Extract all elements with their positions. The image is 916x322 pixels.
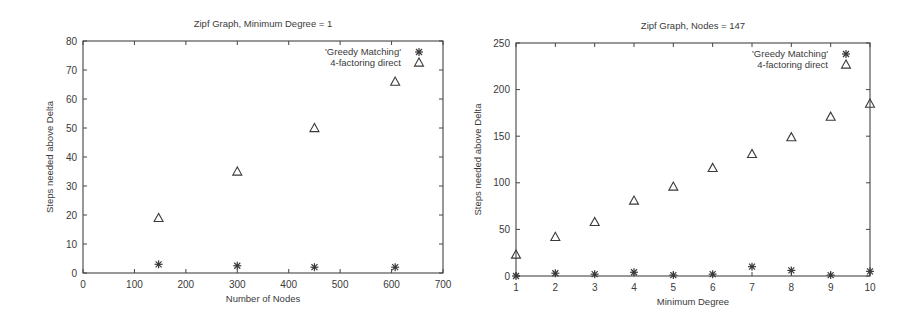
- series-asterisk: [155, 260, 400, 271]
- chart-title: Zipf Graph, Minimum Degree = 1: [194, 18, 333, 29]
- x-tick-label: 700: [435, 279, 452, 290]
- x-axis-label: Number of Nodes: [226, 293, 301, 304]
- triangle-marker: [748, 149, 757, 157]
- triangle-marker: [708, 163, 717, 171]
- series-asterisk: [512, 263, 874, 280]
- triangle-marker: [787, 133, 796, 141]
- x-tick-label: 8: [789, 282, 795, 293]
- y-tick-label: 0: [504, 271, 510, 282]
- x-axis-label: Minimum Degree: [657, 296, 729, 307]
- y-tick-label: 200: [493, 84, 510, 95]
- legend: 'Greedy Matching'4-factoring direct: [325, 46, 423, 68]
- triangle-marker: [842, 60, 851, 68]
- y-axis-label: Steps needed above Delta: [44, 100, 55, 213]
- y-tick-label: 50: [66, 123, 78, 134]
- asterisk-marker: [827, 271, 835, 279]
- asterisk-marker: [748, 263, 756, 271]
- series-triangle: [154, 77, 400, 221]
- asterisk-marker: [842, 50, 850, 58]
- x-tick-label: 2: [553, 282, 559, 293]
- x-tick-label: 500: [332, 279, 349, 290]
- chart-title: Zipf Graph, Nodes = 147: [641, 20, 745, 31]
- asterisk-marker: [155, 260, 163, 268]
- legend-label: 4-factoring direct: [330, 57, 401, 68]
- y-tick-label: 70: [66, 65, 78, 76]
- x-tick-label: 4: [631, 282, 637, 293]
- x-tick-label: 300: [229, 279, 246, 290]
- y-tick-label: 30: [66, 181, 78, 192]
- asterisk-marker: [630, 268, 638, 276]
- x-tick-label: 9: [828, 282, 834, 293]
- x-tick-label: 100: [126, 279, 143, 290]
- x-tick-label: 5: [671, 282, 677, 293]
- asterisk-marker: [415, 48, 423, 56]
- x-tick-label: 400: [280, 279, 297, 290]
- x-tick-label: 1: [513, 282, 519, 293]
- y-tick-label: 40: [66, 152, 78, 163]
- y-tick-label: 10: [66, 239, 78, 250]
- triangle-marker: [590, 217, 599, 225]
- figure: Zipf Graph, Minimum Degree = 10100200300…: [0, 0, 916, 322]
- asterisk-marker: [310, 263, 318, 271]
- asterisk-marker: [787, 266, 795, 274]
- x-tick-label: 600: [383, 279, 400, 290]
- y-tick-label: 80: [66, 36, 78, 47]
- asterisk-marker: [233, 262, 241, 270]
- legend-label: 'Greedy Matching': [752, 48, 828, 59]
- chart-2: Zipf Graph, Nodes = 14712345678910050100…: [472, 20, 876, 307]
- legend-label: 'Greedy Matching': [325, 46, 401, 57]
- triangle-marker: [630, 196, 639, 204]
- y-tick-label: 50: [499, 224, 511, 235]
- asterisk-marker: [391, 263, 399, 271]
- legend-label: 4-factoring direct: [757, 59, 828, 70]
- y-axis-label: Steps needed above Delta: [472, 103, 483, 216]
- y-tick-label: 250: [493, 38, 510, 49]
- asterisk-marker: [512, 272, 520, 280]
- y-tick-label: 150: [493, 131, 510, 142]
- asterisk-marker: [866, 267, 874, 275]
- series-triangle: [512, 99, 875, 258]
- x-tick-label: 6: [710, 282, 716, 293]
- triangle-marker: [551, 232, 560, 240]
- x-tick-label: 3: [592, 282, 598, 293]
- y-tick-label: 20: [66, 210, 78, 221]
- triangle-marker: [154, 213, 163, 221]
- plot-frame: [516, 43, 870, 276]
- plot-frame: [83, 41, 443, 273]
- triangle-marker: [233, 167, 242, 175]
- x-tick-label: 0: [80, 279, 86, 290]
- triangle-marker: [310, 124, 319, 132]
- x-tick-label: 200: [178, 279, 195, 290]
- triangle-marker: [669, 182, 678, 190]
- x-tick-label: 7: [749, 282, 755, 293]
- legend: 'Greedy Matching'4-factoring direct: [752, 48, 850, 70]
- chart-1: Zipf Graph, Minimum Degree = 10100200300…: [44, 18, 452, 304]
- y-tick-label: 100: [493, 177, 510, 188]
- triangle-marker: [826, 112, 835, 120]
- asterisk-marker: [551, 269, 559, 277]
- triangle-marker: [391, 77, 400, 85]
- triangle-marker: [415, 58, 424, 66]
- asterisk-marker: [591, 270, 599, 278]
- y-tick-label: 0: [71, 268, 77, 279]
- x-tick-label: 10: [864, 282, 876, 293]
- asterisk-marker: [709, 270, 717, 278]
- y-tick-label: 60: [66, 94, 78, 105]
- asterisk-marker: [669, 271, 677, 279]
